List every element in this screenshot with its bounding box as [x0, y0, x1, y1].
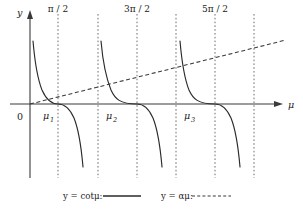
axes-group: [10, 10, 283, 178]
y-axis-arrowhead: [27, 10, 33, 19]
tick-label-pi-over-2: π / 2: [48, 4, 68, 14]
tick-label-3pi-over-2: 3π / 2: [124, 4, 150, 14]
root-label-mu2-sub: 2: [112, 116, 117, 124]
root-label-mu1: μ 1: [43, 110, 54, 124]
figure-canvas: y μ 0 π / 2 3π / 2 5π / 2 μ 1 μ 2 μ 3 y …: [0, 0, 303, 212]
legend-label-cot: y = cotμ:: [62, 191, 103, 201]
root-label-mu2-base: μ: [106, 110, 112, 121]
x-axis-label: μ: [288, 99, 294, 110]
y-axis-label: y: [16, 7, 23, 18]
alpha-mu-ray: [30, 40, 286, 104]
root-label-mu1-sub: 1: [50, 116, 54, 124]
origin-label: 0: [17, 111, 23, 122]
root-label-mu3-base: μ: [184, 110, 190, 121]
plot-svg: y μ 0 π / 2 3π / 2 5π / 2 μ 1 μ 2 μ 3 y …: [0, 0, 303, 212]
root-label-mu3: μ 3: [184, 110, 195, 124]
legend: y = cotμ: y = αμ:: [62, 191, 231, 201]
root-label-mu3-sub: 3: [191, 116, 195, 124]
root-label-mu2: μ 2: [106, 110, 117, 124]
tick-label-5pi-over-2: 5π / 2: [202, 4, 228, 14]
asymptote-group: [58, 14, 254, 178]
root-label-mu1-base: μ: [43, 110, 49, 121]
legend-label-alpha-mu: y = αμ:: [160, 191, 193, 201]
x-axis-arrowhead: [274, 101, 283, 107]
